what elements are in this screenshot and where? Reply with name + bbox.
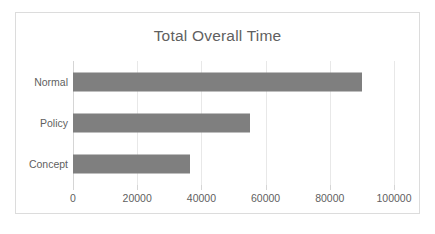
tick-mark xyxy=(394,185,395,190)
tick-mark xyxy=(266,185,267,190)
category-label-wrap: Policy xyxy=(16,102,68,143)
bar-normal[interactable] xyxy=(73,72,362,91)
bar-row xyxy=(73,102,394,143)
category-label-policy: Policy xyxy=(40,117,68,129)
tick-label-60000: 60000 xyxy=(251,192,280,204)
bar-policy[interactable] xyxy=(73,113,250,132)
tick-mark xyxy=(330,185,331,190)
bar-row xyxy=(73,144,394,185)
chart-title: Total Overall Time xyxy=(16,27,419,45)
tick-label-80000: 80000 xyxy=(315,192,344,204)
tick-mark xyxy=(201,185,202,190)
gridline xyxy=(394,61,395,185)
value-axis-ticks: 020000400006000080000100000 xyxy=(73,185,394,191)
tick-label-20000: 20000 xyxy=(123,192,152,204)
tick-mark xyxy=(137,185,138,190)
bar-row xyxy=(73,61,394,102)
category-label-concept: Concept xyxy=(29,158,68,170)
tick-label-100000: 100000 xyxy=(376,192,411,204)
category-label-wrap: Concept xyxy=(16,144,68,185)
category-label-wrap: Normal xyxy=(16,61,68,102)
tick-label-40000: 40000 xyxy=(187,192,216,204)
chart-frame: Total Overall Time NormalPolicyConcept 0… xyxy=(15,12,420,214)
plot-area xyxy=(73,61,394,185)
category-label-normal: Normal xyxy=(34,76,68,88)
tick-label-0: 0 xyxy=(70,192,76,204)
tick-mark xyxy=(73,185,74,190)
bar-concept[interactable] xyxy=(73,155,190,174)
